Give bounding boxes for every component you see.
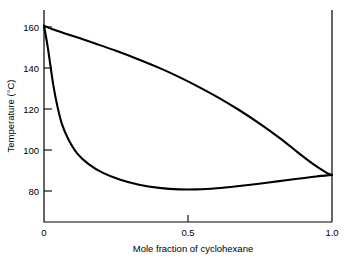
y-axis-title: Temperature (°C) xyxy=(5,80,16,153)
y-tick-label-80: 80 xyxy=(28,186,39,197)
x-tick-label-0-5: 0.5 xyxy=(181,227,194,238)
vapour-curve xyxy=(44,26,332,175)
y-tick-label-140: 140 xyxy=(23,63,39,74)
y-tick-label-160: 160 xyxy=(23,22,39,33)
phase-diagram-chart: 160 140 120 100 80 0 0.5 1.0 Mole fracti… xyxy=(0,0,353,259)
x-tick-label-0: 0 xyxy=(41,227,46,238)
y-tick-label-100: 100 xyxy=(23,145,39,156)
chart-container: 160 140 120 100 80 0 0.5 1.0 Mole fracti… xyxy=(0,0,353,259)
x-axis-title: Mole fraction of cyclohexane xyxy=(133,243,253,254)
x-tick-label-1-0: 1.0 xyxy=(325,227,338,238)
liquid-curve xyxy=(44,26,332,190)
y-tick-label-120: 120 xyxy=(23,104,39,115)
